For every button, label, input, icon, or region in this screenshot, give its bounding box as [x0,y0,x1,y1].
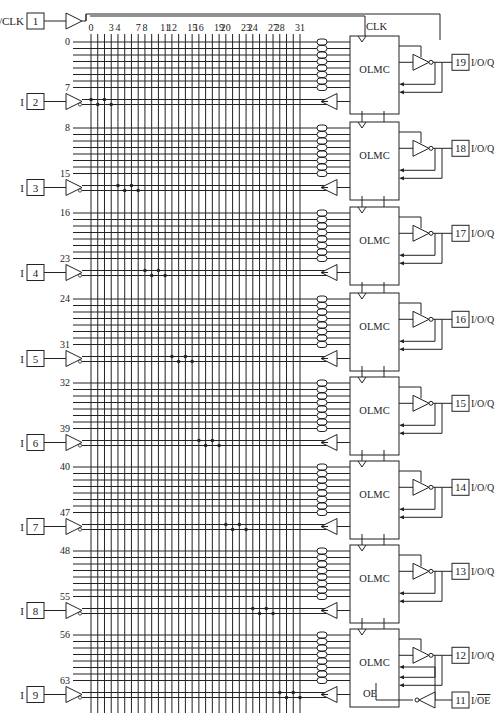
junction-dot [251,607,255,611]
olmc-block [350,293,399,371]
junction-dot [204,444,208,448]
junction-dot [211,439,215,443]
junction-dot [116,184,120,188]
row-label-40: 40 [60,461,70,472]
junction-dot [238,523,242,527]
and-gate-icon [317,639,327,645]
olmc-label: OLMC [359,321,389,332]
invert-bubble-icon [78,189,81,192]
and-gate-icon [317,138,327,144]
column-label-0: 0 [89,22,94,33]
olmc-block [350,122,399,200]
and-gate-icon [317,236,327,242]
input-buffer-icon [66,603,82,619]
pin-2-box-number: 2 [33,96,39,108]
and-gate-icon [317,503,327,509]
input-buffer-icon [66,180,82,196]
olmc-label: OLMC [359,573,389,584]
and-gate-icon [317,574,327,580]
invert-bubble-icon [429,653,433,657]
arrow-icon [399,665,404,669]
pin-4-box-number: 4 [33,267,39,279]
and-gate-icon [317,380,327,386]
and-gate-icon [317,419,327,425]
junction-dot [264,607,268,611]
and-gate-icon [317,59,327,65]
pin-19-label: I/O/Q [471,57,495,68]
arrow-icon [399,591,404,595]
row-label-32: 32 [60,377,70,388]
and-gate-icon [317,471,327,477]
pin-9-box-number: 9 [33,689,39,701]
and-gate-icon [317,645,327,651]
input-buffer-icon [66,94,82,110]
olmc-label: OLMC [359,150,389,161]
olmc-block [350,36,399,114]
and-gate-icon [317,322,327,328]
and-gate-icon [317,658,327,664]
and-gate-icon [317,632,327,638]
row-label-16: 16 [60,207,70,218]
and-gate-icon [317,671,327,677]
clk-label: CLK [366,21,387,32]
arrow-icon [399,339,404,343]
arrow-icon [399,423,404,427]
pin-2-label: I [20,96,24,108]
and-gate-icon [317,497,327,503]
and-gate-icon [317,210,327,216]
and-gate-icon [317,426,327,432]
pin-14-box-number: 14 [455,481,467,493]
pin-7-label: I [20,521,24,533]
invert-bubble-icon [429,569,433,573]
and-gate-icon [317,587,327,593]
invert-bubble-icon [78,360,81,363]
and-gate-icon [317,329,327,335]
column-label-7: 7 [136,22,141,33]
and-gate-icon [317,309,327,315]
pin-16-box-number: 16 [455,313,467,325]
row-label-31: 31 [60,339,70,350]
row-label-39: 39 [60,423,70,434]
pin-11-box-number: 11 [455,694,466,706]
and-gate-icon [317,223,327,229]
and-gate-icon [317,249,327,255]
pin-6-box-number: 6 [33,437,39,449]
column-label-28: 28 [275,22,285,33]
pin-1-label: I/CLK [0,15,24,27]
row-label-48: 48 [60,545,70,556]
junction-dot [130,184,134,188]
junction-dot [278,691,282,695]
pin-6-label: I [20,437,24,449]
and-gate-icon [317,78,327,84]
and-gate-icon [317,581,327,587]
column-label-12: 12 [167,22,177,33]
and-gate-icon [317,342,327,348]
olmc-label: OLMC [359,657,389,668]
invert-bubble-icon [429,146,433,150]
pin-8-box-number: 8 [33,605,39,617]
pin-16-label: I/O/Q [471,314,495,325]
invert-bubble-icon [429,317,433,321]
junction-dot [190,360,194,364]
olmc-block [350,461,399,539]
pin-3-box-number: 3 [33,182,39,194]
arrow-icon [399,683,404,687]
row-label-0: 0 [65,36,70,47]
and-gate-icon [317,164,327,170]
column-label-24: 24 [248,22,258,33]
and-gate-icon [317,39,327,45]
row-label-7: 7 [65,82,70,93]
olmc-block [350,545,399,623]
junction-dot [184,355,188,359]
pin-18-label: I/O/Q [471,143,495,154]
and-gate-icon [317,387,327,393]
and-gate-icon [317,296,327,302]
pin-4-label: I [20,267,24,279]
olmc-block [350,207,399,285]
and-gate-icon [317,46,327,52]
junction-dot [217,444,221,448]
junction-dot [150,274,154,278]
pin-7-box-number: 7 [33,521,39,533]
pin-13-label: I/O/Q [471,566,495,577]
arrow-icon [399,599,404,603]
